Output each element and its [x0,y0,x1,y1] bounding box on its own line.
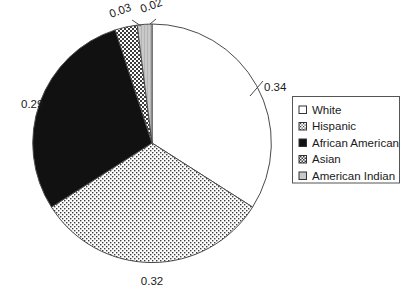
legend-item-african-american[interactable]: African American [299,137,399,149]
legend-swatch-american-indian-icon [299,172,307,180]
chart-canvas: 0.34 0.32 0.29 0.03 0.02 White Hispanic [0,0,404,297]
legend-swatch-white-icon [299,106,307,114]
pie-wedges [33,24,272,263]
legend-label-hispanic: Hispanic [312,120,356,132]
legend-label-asian: Asian [312,153,341,165]
legend-label-african-american: African American [312,137,399,149]
pie-chart-figure: 0.34 0.32 0.29 0.03 0.02 White Hispanic [0,0,404,297]
legend-label-white: White [312,104,341,116]
value-label-hispanic: 0.32 [141,275,163,287]
legend-swatch-asian-icon [299,156,307,164]
legend-swatch-african-american-icon [299,139,307,147]
value-label-white: 0.34 [264,81,287,93]
legend-label-american-indian: American Indian [312,170,395,182]
legend-item-american-indian[interactable]: American Indian [299,170,395,182]
chart-legend: White Hispanic African American Asian Am… [293,97,400,184]
legend-swatch-hispanic-icon [299,123,307,131]
value-label-african-american: 0.29 [21,98,43,110]
